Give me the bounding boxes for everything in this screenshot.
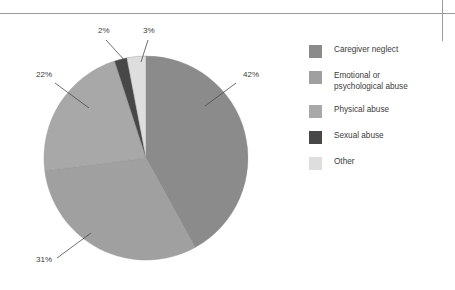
legend-item[interactable]: Other: [309, 156, 449, 170]
legend-swatch-icon: [309, 105, 322, 118]
slice-percent-label: 22%: [36, 70, 52, 79]
pie-chart-figure: 42%31%22%2%3% Caregiver neglectEmotional…: [0, 0, 455, 290]
slice-percent-label: 31%: [36, 255, 52, 264]
legend-item-label: Caregiver neglect: [334, 44, 398, 55]
slice-leader-line: [57, 233, 91, 258]
legend-item-label: Physical abuse: [334, 104, 389, 115]
legend-swatch-icon: [309, 71, 322, 84]
slice-percent-label: 3%: [143, 26, 155, 35]
legend-swatch-icon: [309, 45, 322, 58]
chart-legend: Caregiver neglectEmotional or psychologi…: [309, 44, 449, 182]
legend-item[interactable]: Sexual abuse: [309, 130, 449, 144]
legend-item-label: Other: [334, 156, 354, 167]
legend-item-label: Emotional or psychological abuse: [334, 70, 408, 92]
slice-percent-label: 42%: [243, 70, 259, 79]
pie-slice-group: [44, 56, 248, 260]
slice-percent-label: 2%: [98, 26, 110, 35]
legend-item[interactable]: Emotional or psychological abuse: [309, 70, 449, 92]
legend-swatch-icon: [309, 131, 322, 144]
legend-item-label: Sexual abuse: [334, 130, 384, 141]
slice-leader-line: [106, 40, 127, 63]
legend-item[interactable]: Caregiver neglect: [309, 44, 449, 58]
legend-swatch-icon: [309, 157, 322, 170]
legend-item[interactable]: Physical abuse: [309, 104, 449, 118]
